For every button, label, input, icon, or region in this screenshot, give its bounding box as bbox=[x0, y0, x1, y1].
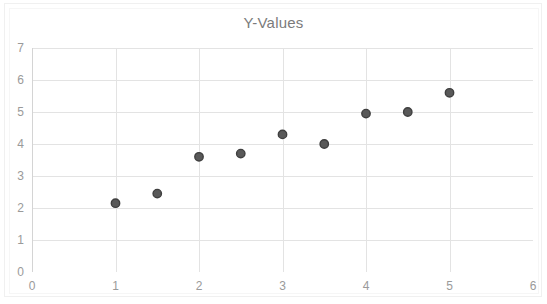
data-point[interactable] bbox=[237, 149, 245, 157]
y-tick-label: 7 bbox=[0, 42, 24, 54]
y-tick-label: 2 bbox=[0, 202, 24, 214]
data-point[interactable] bbox=[153, 189, 161, 197]
y-tick-label: 6 bbox=[0, 74, 24, 86]
x-tick-label: 6 bbox=[518, 280, 547, 292]
x-tick-label: 1 bbox=[101, 280, 131, 292]
data-point[interactable] bbox=[111, 199, 119, 207]
plot-svg bbox=[32, 48, 533, 272]
data-point[interactable] bbox=[445, 89, 453, 97]
plot-area bbox=[32, 48, 533, 272]
data-point[interactable] bbox=[195, 153, 203, 161]
x-tick-label: 5 bbox=[435, 280, 465, 292]
data-point[interactable] bbox=[278, 130, 286, 138]
x-tick-label: 0 bbox=[17, 280, 47, 292]
scatter-chart: Y-Values 01234567 0123456 bbox=[0, 0, 547, 304]
y-tick-label: 4 bbox=[0, 138, 24, 150]
x-tick-label: 4 bbox=[351, 280, 381, 292]
x-tick-label: 2 bbox=[184, 280, 214, 292]
data-point[interactable] bbox=[362, 109, 370, 117]
data-point[interactable] bbox=[320, 140, 328, 148]
y-tick-label: 5 bbox=[0, 106, 24, 118]
chart-title: Y-Values bbox=[0, 14, 547, 31]
y-tick-label: 0 bbox=[0, 266, 24, 278]
y-tick-label: 3 bbox=[0, 170, 24, 182]
x-tick-label: 3 bbox=[268, 280, 298, 292]
data-point[interactable] bbox=[404, 108, 412, 116]
y-tick-label: 1 bbox=[0, 234, 24, 246]
